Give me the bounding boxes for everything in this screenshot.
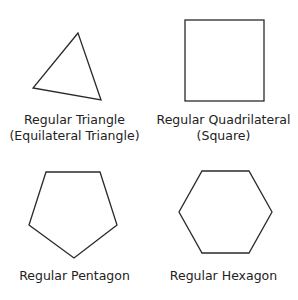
square-label-line1: Regular Quadrilateral bbox=[149, 112, 298, 128]
hexagon-label-line1: Regular Hexagon bbox=[149, 268, 298, 284]
triangle-label-line1: Regular Triangle bbox=[0, 112, 149, 128]
triangle-label-line2: (Equilateral Triangle) bbox=[0, 128, 149, 144]
triangle-shape bbox=[33, 33, 101, 100]
triangle-label: Regular Triangle (Equilateral Triangle) bbox=[0, 112, 149, 144]
hexagon-label: Regular Hexagon bbox=[149, 268, 298, 284]
pentagon-label: Regular Pentagon bbox=[0, 268, 149, 284]
shapes-canvas bbox=[0, 0, 298, 300]
square-shape bbox=[185, 20, 264, 101]
square-label: Regular Quadrilateral (Square) bbox=[149, 112, 298, 144]
square-label-line2: (Square) bbox=[149, 128, 298, 144]
hexagon-shape bbox=[179, 171, 272, 253]
pentagon-label-line1: Regular Pentagon bbox=[0, 268, 149, 284]
pentagon-shape bbox=[29, 172, 117, 258]
